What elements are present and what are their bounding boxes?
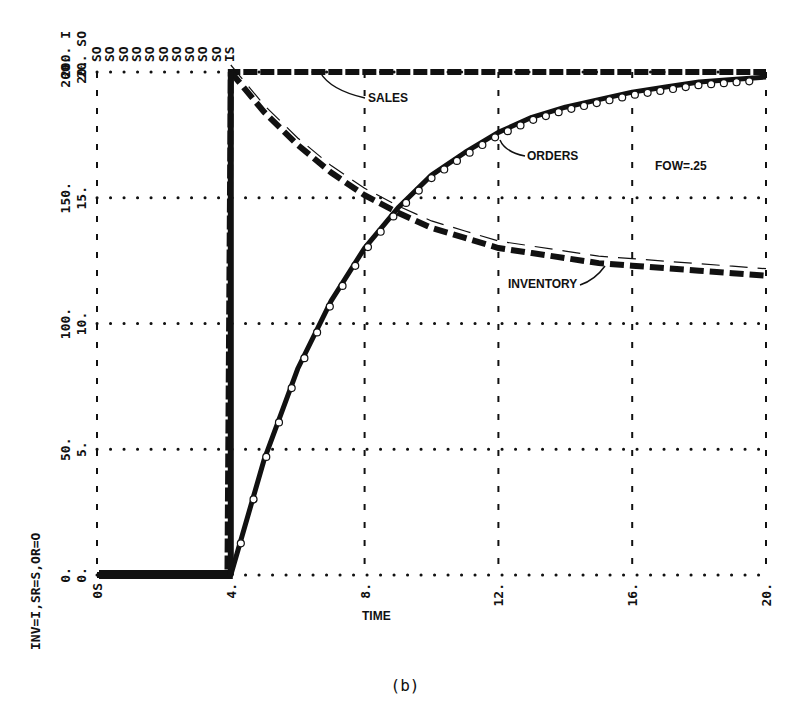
orders-point-marker xyxy=(301,355,308,362)
annotations: SALES ORDERS FOW=.25 INVENTORY TIME xyxy=(320,72,707,623)
orders-point-marker xyxy=(288,385,295,392)
orders-point-marker xyxy=(403,199,410,206)
zero-baseline-bar xyxy=(99,570,233,579)
x-tick-label: 0S xyxy=(90,583,105,599)
x-tick-label: 8. xyxy=(358,583,373,599)
orders-point-marker xyxy=(504,128,511,135)
orders-point-marker xyxy=(733,79,740,86)
gridlines xyxy=(97,72,766,575)
top-scale-label: 200. I xyxy=(58,31,73,78)
orders-point-marker xyxy=(237,540,244,547)
orders-point-marker xyxy=(708,81,715,88)
orders-point-marker xyxy=(314,329,321,336)
orders-point-marker xyxy=(250,496,257,503)
y-tick-label: 100. xyxy=(58,308,73,339)
orders-point-marker xyxy=(581,102,588,109)
inventory-leader-line xyxy=(580,266,605,285)
y-tick-label: 50. xyxy=(58,438,73,461)
inventory-line xyxy=(231,72,766,276)
orders-point-marker xyxy=(530,116,537,123)
orders-point-marker xyxy=(720,80,727,87)
x-tick-label: 12. xyxy=(491,583,506,606)
sales-leader-line xyxy=(320,72,365,98)
y-axis-legend: INV=I,SR=S,OR=O xyxy=(28,532,43,650)
orders-point-marker xyxy=(670,85,677,92)
x-tick-label: 16. xyxy=(625,583,640,606)
inventory-label: INVENTORY xyxy=(508,277,577,291)
y-tick-label-inner: 0. xyxy=(74,567,89,583)
orders-point-marker xyxy=(657,87,664,94)
sales-label: SALES xyxy=(368,91,408,105)
orders-point-marker xyxy=(606,97,613,104)
chart: 0.0.50.5.100.10.150.15.200.20.0S4.8.12.1… xyxy=(0,0,810,705)
orders-point-marker xyxy=(555,109,562,116)
orders-point-marker xyxy=(542,113,549,120)
orders-point-marker xyxy=(619,94,626,101)
x-tick-label: 20. xyxy=(759,583,774,606)
orders-point-marker xyxy=(275,419,282,426)
orders-point-marker xyxy=(466,149,473,156)
y-tick-label-inner: 15. xyxy=(74,186,89,209)
orders-point-marker xyxy=(428,175,435,182)
x-tick-label: 4. xyxy=(224,583,239,599)
x-axis-title: TIME xyxy=(362,609,391,623)
orders-point-marker xyxy=(364,244,371,251)
orders-point-marker xyxy=(441,166,448,173)
series-group xyxy=(97,65,766,579)
axes: 0.0.50.5.100.10.150.15.200.20.0S4.8.12.1… xyxy=(28,31,774,650)
orders-point-marker xyxy=(517,122,524,129)
top-scale-label: 20. SO xyxy=(74,31,89,78)
orders-point-marker xyxy=(390,213,397,220)
fow-parameter-label: FOW=.25 xyxy=(655,159,707,173)
orders-point-marker xyxy=(644,89,651,96)
orders-point-marker xyxy=(631,91,638,98)
figure-caption: (b) xyxy=(0,676,810,695)
orders-point-marker xyxy=(453,157,460,164)
orders-point-marker xyxy=(326,303,333,310)
y-tick-label-inner: 10. xyxy=(74,312,89,335)
orders-point-marker xyxy=(263,453,270,460)
y-tick-label: 0. xyxy=(58,567,73,583)
orders-point-marker xyxy=(695,82,702,89)
orders-label: ORDERS xyxy=(527,149,578,163)
orders-point-marker xyxy=(682,84,689,91)
orders-line xyxy=(97,77,766,575)
orders-point-marker xyxy=(746,78,753,85)
orders-leader-line xyxy=(500,140,525,156)
plot-symbol-marker: IS xyxy=(222,46,237,62)
y-tick-label: 150. xyxy=(58,182,73,213)
sales-line xyxy=(97,72,766,575)
orders-point-marker xyxy=(593,100,600,107)
orders-point-marker xyxy=(568,105,575,112)
orders-point-marker xyxy=(339,282,346,289)
orders-point-marker xyxy=(415,187,422,194)
orders-point-marker xyxy=(479,142,486,149)
orders-point-marker xyxy=(377,228,384,235)
y-tick-label-inner: 5. xyxy=(74,441,89,457)
orders-point-marker xyxy=(492,134,499,141)
orders-point-marker xyxy=(352,262,359,269)
